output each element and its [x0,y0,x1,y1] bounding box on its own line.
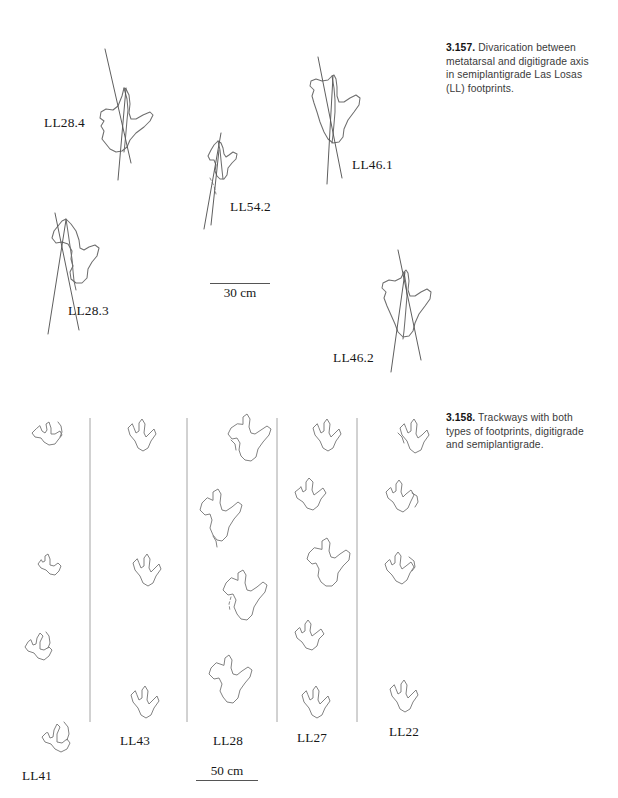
scale-bar-50cm-line [196,780,258,781]
trackway-LL27 [295,419,350,718]
footprint-LL46.2 [382,250,431,372]
top-panel-drawings [0,0,618,798]
trackway-label-ll27: LL27 [297,730,327,746]
caption-3158: 3.158. Trackways with both types of foot… [446,411,596,452]
caption-3157-number: 3.157. [446,42,475,53]
trackway-LL41 [25,422,70,752]
trackway-LL28 [200,414,271,703]
specimen-label-ll54-2: LL54.2 [230,199,271,215]
trackway-LL43 [128,419,161,718]
scale-bar-30cm-line [210,283,270,284]
scale-bar-50cm-label: 50 cm [211,763,244,778]
scale-bar-30cm-label: 30 cm [224,285,257,300]
trackway-label-ll41: LL41 [22,768,52,784]
footprint-LL28.4 [100,49,153,180]
caption-3157: 3.157. Divarication between metatarsal a… [446,41,596,95]
trackway-dividers [90,418,357,722]
caption-3158-number: 3.158. [446,412,475,423]
trackway-label-ll43: LL43 [120,733,150,749]
specimen-label-ll28-3: LL28.3 [68,303,109,319]
figure-page: 3.157. Divarication between metatarsal a… [0,0,618,798]
specimen-label-ll28-4: LL28.4 [44,115,85,131]
scale-bar-50cm: 50 cm [196,763,258,781]
scale-bar-30cm: 30 cm [210,283,270,301]
trackway-LL22 [385,419,429,712]
specimen-label-ll46-1: LL46.1 [352,157,393,173]
specimen-label-ll46-2: LL46.2 [333,350,374,366]
trackway-label-ll28: LL28 [213,733,243,749]
trackway-label-ll22: LL22 [389,724,419,740]
bottom-panel-drawings [0,0,618,798]
